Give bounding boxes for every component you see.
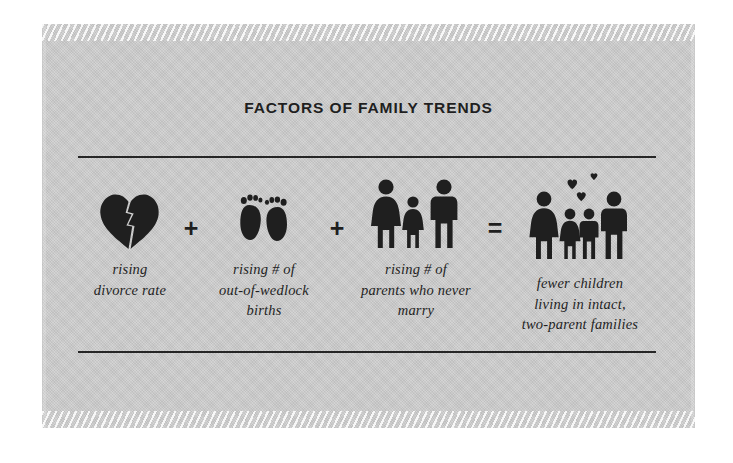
broken-heart-icon: [99, 172, 161, 250]
baby-footprints-icon: [231, 172, 297, 250]
equation-term-never-marry: rising # of parents who never marry: [346, 172, 486, 321]
caption-line: divorce rate: [94, 280, 166, 301]
caption-divorce: rising divorce rate: [94, 259, 166, 300]
family-with-hearts-icon: [527, 172, 633, 264]
caption-never-marry: rising # of parents who never marry: [361, 259, 471, 321]
operator-equals: =: [488, 216, 503, 241]
caption-line: rising: [94, 259, 166, 280]
operator-plus-2: +: [330, 216, 345, 241]
operator-plus-1: +: [184, 216, 199, 241]
caption-fewer-children: fewer children living in intact, two-par…: [522, 273, 638, 335]
divider-rule-top: [78, 156, 656, 158]
caption-line: fewer children: [522, 273, 638, 294]
divider-rule-bottom: [78, 351, 656, 353]
paper-edge-left: [43, 24, 46, 428]
caption-line: out-of-wedlock: [219, 280, 309, 301]
page-title: FACTORS OF FAMILY TRENDS: [42, 99, 695, 117]
caption-out-of-wedlock: rising # of out-of-wedlock births: [219, 259, 309, 321]
infographic-page: FACTORS OF FAMILY TRENDS rising divorce …: [0, 0, 733, 463]
caption-line: living in intact,: [522, 294, 638, 315]
hatched-border-top: [42, 24, 695, 41]
equation-term-fewer-children: fewer children living in intact, two-par…: [504, 172, 656, 335]
caption-line: births: [219, 300, 309, 321]
woman-child-man-icon: [368, 172, 464, 250]
caption-line: marry: [361, 300, 471, 321]
hatched-border-bottom: [42, 411, 695, 428]
caption-line: two-parent families: [522, 314, 638, 335]
caption-line: parents who never: [361, 280, 471, 301]
paper-edge-right: [691, 24, 694, 428]
equation-row: rising divorce rate +: [78, 172, 656, 342]
equation-term-divorce: rising divorce rate: [78, 172, 182, 300]
caption-line: rising # of: [219, 259, 309, 280]
infographic-card: FACTORS OF FAMILY TRENDS rising divorce …: [42, 24, 695, 428]
equation-term-out-of-wedlock: rising # of out-of-wedlock births: [200, 172, 328, 321]
caption-line: rising # of: [361, 259, 471, 280]
